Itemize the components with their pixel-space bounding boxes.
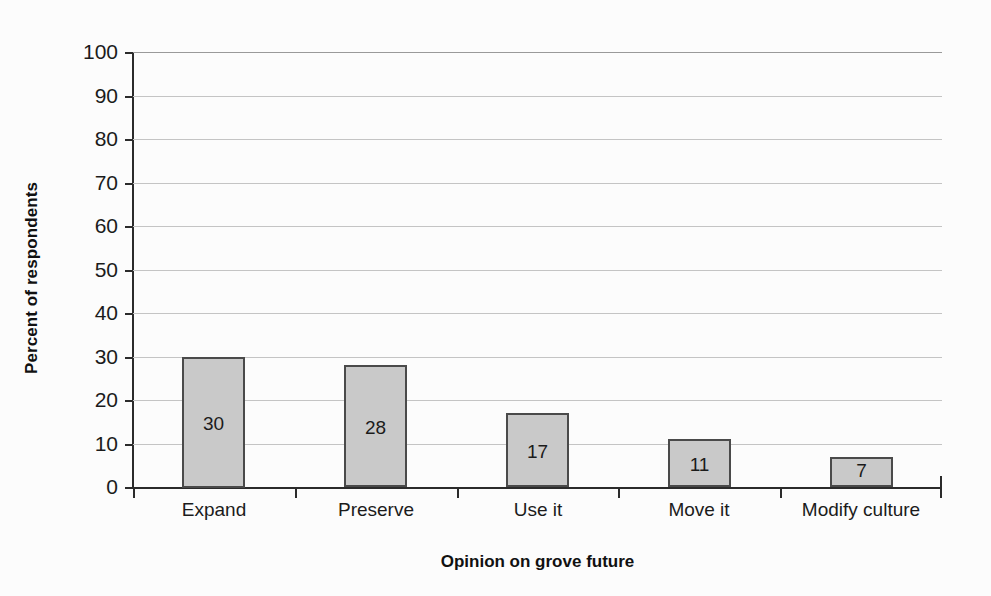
x-axis-baseline <box>133 487 942 489</box>
gridline <box>133 139 942 140</box>
y-axis-tick-label: 90 <box>8 85 118 106</box>
gridline <box>133 357 942 358</box>
y-axis-tick-label: 10 <box>8 433 118 454</box>
x-axis-tick <box>133 487 135 498</box>
bar: 28 <box>344 365 407 487</box>
x-axis-tick-label: Move it <box>618 500 780 519</box>
x-axis-tick <box>618 487 620 498</box>
x-axis-tick <box>457 487 459 498</box>
y-axis-tick <box>125 400 133 402</box>
gridline <box>133 270 942 271</box>
x-axis-tick-label: Use it <box>457 500 619 519</box>
y-axis-tick <box>125 313 133 315</box>
y-axis-tick <box>125 52 133 54</box>
bar-value-label: 28 <box>346 418 405 437</box>
y-axis-tick <box>125 487 133 489</box>
y-axis-tick-label: 80 <box>8 128 118 149</box>
x-axis-tick-label: Modify culture <box>780 500 942 519</box>
gridline <box>133 52 942 53</box>
y-axis-tick-label: 100 <box>8 41 118 62</box>
y-axis-title: Percent of respondents <box>22 148 42 408</box>
bar-value-label: 11 <box>670 455 729 474</box>
gridline <box>133 96 942 97</box>
y-axis-tick <box>125 444 133 446</box>
y-axis-tick <box>125 226 133 228</box>
x-axis-tick-label: Preserve <box>295 500 457 519</box>
y-axis-tick <box>125 96 133 98</box>
bar: 30 <box>182 357 245 488</box>
bar: 17 <box>506 413 569 487</box>
gridline <box>133 313 942 314</box>
gridline <box>133 183 942 184</box>
y-axis-tick <box>125 270 133 272</box>
gridline <box>133 226 942 227</box>
bar-chart-figure: 0102030405060708090100 Percent of respon… <box>0 0 991 596</box>
x-axis-tick <box>940 487 942 498</box>
x-axis-tick <box>295 487 297 498</box>
y-axis-tick <box>125 357 133 359</box>
bar-value-label: 7 <box>832 461 891 480</box>
y-axis-tick <box>125 183 133 185</box>
bar-value-label: 17 <box>508 442 567 461</box>
bar-value-label: 30 <box>184 414 243 433</box>
x-axis-title: Opinion on grove future <box>133 552 942 572</box>
bar: 11 <box>668 439 731 487</box>
y-axis-tick <box>125 139 133 141</box>
y-axis-tick-label: 0 <box>8 476 118 497</box>
x-axis-tick <box>780 487 782 498</box>
bar: 7 <box>830 457 893 487</box>
gridline <box>133 400 942 401</box>
y-axis-tick-labels: 0102030405060708090100 <box>0 0 118 596</box>
x-axis-tick-label: Expand <box>133 500 295 519</box>
